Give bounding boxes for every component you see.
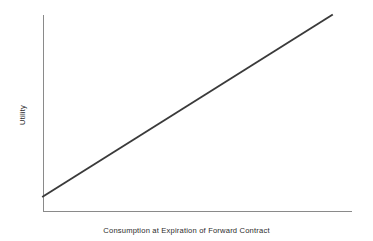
- chart-plot-area: [0, 0, 373, 241]
- y-axis-label-container: Utility: [14, 80, 30, 150]
- x-axis-label: Consumption at Expiration of Forward Con…: [0, 226, 373, 235]
- y-axis-label: Utility: [18, 105, 27, 125]
- utility-line-series: [43, 15, 332, 197]
- utility-line-chart-figure: Utility Consumption at Expiration of For…: [0, 0, 373, 241]
